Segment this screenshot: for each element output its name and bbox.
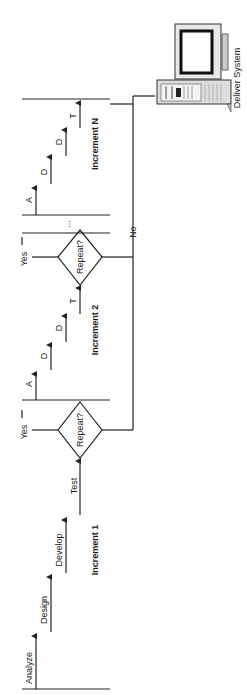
incremental-model-diagram: Analyze Design Develop Test Increment 1 … [0, 0, 247, 695]
step-d1-2: D [39, 352, 49, 359]
ellipsis: ... [62, 220, 72, 228]
decision-2: Repeat? Yes No [19, 226, 138, 285]
increment-n-label: Increment N [90, 118, 100, 170]
computer-icon [157, 24, 231, 112]
ellipsis-gap: ... [22, 215, 110, 233]
increment-1-label: Increment 1 [90, 525, 100, 576]
step-a-2: A [24, 381, 34, 387]
step-t-n: T [68, 113, 78, 119]
repeat-label-1: Repeat? [75, 413, 85, 447]
repeat-label-2: Repeat? [75, 240, 85, 274]
step-d1-n: D [39, 168, 49, 175]
step-analyze: Analyze [24, 652, 34, 684]
no-path [110, 96, 155, 430]
increment-1: Analyze Design Develop Test Increment 1 [22, 461, 110, 689]
step-a-n: A [24, 197, 34, 203]
step-design: Design [39, 596, 49, 624]
step-test: Test [69, 477, 79, 494]
increment-n: A D D T Increment N [22, 99, 110, 215]
step-d2-2: D [54, 324, 64, 331]
deliver-system-label: Deliver System [232, 48, 242, 109]
yes-label-2: Yes [19, 251, 29, 266]
increment-2-label: Increment 2 [90, 305, 100, 356]
increment-2: A D D T Increment 2 [22, 288, 110, 400]
step-t-2: T [68, 298, 78, 304]
decision-1: Repeat? Yes [19, 402, 133, 458]
step-d2-n: D [54, 138, 64, 145]
step-develop: Develop [54, 533, 64, 566]
yes-label-1: Yes [19, 424, 29, 439]
